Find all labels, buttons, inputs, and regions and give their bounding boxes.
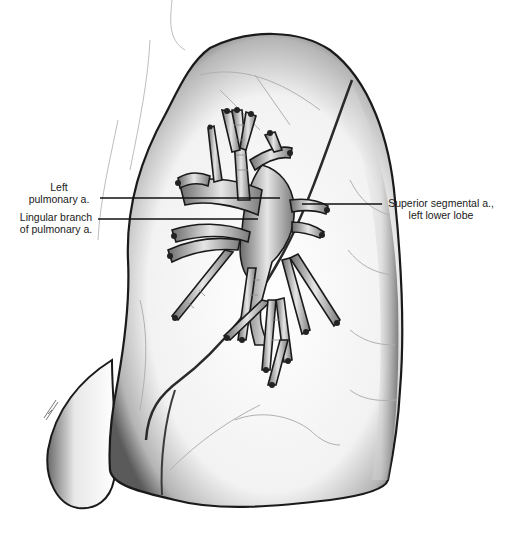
- label-line-1: Superior segmental a.,: [381, 197, 501, 209]
- label-line-2: left lower lobe: [381, 209, 501, 221]
- lung-drawing: [0, 0, 506, 533]
- label-superior-segmental-artery: Superior segmental a., left lower lobe: [381, 197, 501, 221]
- lingula: [47, 360, 115, 508]
- artist-signature: [44, 400, 58, 420]
- label-line-1: Left: [18, 181, 100, 193]
- label-line-1: Lingular branch: [16, 211, 96, 223]
- label-line-2: pulmonary a.: [18, 193, 100, 205]
- label-lingular-branch: Lingular branch of pulmonary a.: [16, 211, 96, 235]
- label-line-2: of pulmonary a.: [16, 223, 96, 235]
- label-left-pulmonary-artery: Left pulmonary a.: [18, 181, 100, 205]
- lung-illustration: Left pulmonary a. Lingular branch of pul…: [0, 0, 506, 533]
